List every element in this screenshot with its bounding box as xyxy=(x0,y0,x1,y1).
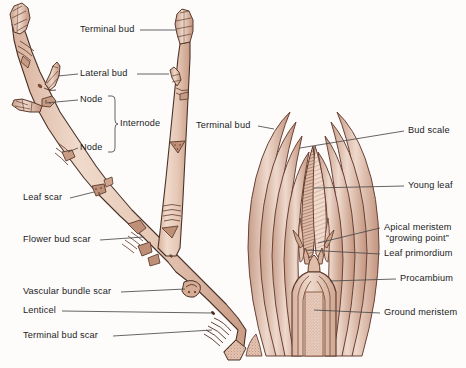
label-bud-scale: Bud scale xyxy=(408,125,450,136)
botany-twig-figure: Terminal bud Lateral bud Node Internode … xyxy=(0,0,466,368)
label-lenticel: Lenticel xyxy=(23,305,56,316)
internode-bracket xyxy=(108,96,118,152)
label-node-upper: Node xyxy=(80,94,103,105)
label-lateral-bud: Lateral bud xyxy=(80,68,128,79)
label-leaf-primordium: Leaf primordium xyxy=(384,248,453,259)
label-terminal-bud-scar: Terminal bud scar xyxy=(23,330,98,341)
label-procambium: Procambium xyxy=(400,273,453,284)
leader-terminal-bud-scar xyxy=(113,330,212,336)
label-vascular-bundle-scar: Vascular bundle scar xyxy=(23,286,111,297)
label-growing-point: “growing point” xyxy=(386,233,449,244)
leader-lateral-bud-b xyxy=(58,74,78,76)
label-flower-bud-scar: Flower bud scar xyxy=(23,234,91,245)
leader-vascular-bundle-scar xyxy=(121,289,185,292)
leader-flower-bud-scar xyxy=(100,237,143,240)
bud-section-art xyxy=(246,112,379,356)
label-young-leaf: Young leaf xyxy=(408,180,453,191)
label-apical-meristem: Apical meristem xyxy=(384,222,452,233)
leader-lenticel xyxy=(62,311,211,313)
lenticel-dot xyxy=(210,310,216,315)
lateral-bud-art xyxy=(44,62,60,91)
label-leaf-scar: Leaf scar xyxy=(23,192,62,203)
label-ground-meristem: Ground meristem xyxy=(384,307,457,318)
label-node-lower: Node xyxy=(80,142,103,153)
terminal-bud-scar-art xyxy=(204,318,231,346)
bud-scale-fragment xyxy=(246,334,262,356)
label-terminal-bud: Terminal bud xyxy=(80,24,134,35)
label-internode: Internode xyxy=(120,118,160,129)
leader-leaf-scar xyxy=(70,192,94,198)
twig-tip-bud xyxy=(10,3,30,34)
ground-meristem-block xyxy=(305,292,323,356)
branch-terminal-bud xyxy=(175,9,193,44)
leader-terminal-bud-section xyxy=(258,126,274,129)
label-terminal-bud-section: Terminal bud xyxy=(196,120,250,131)
